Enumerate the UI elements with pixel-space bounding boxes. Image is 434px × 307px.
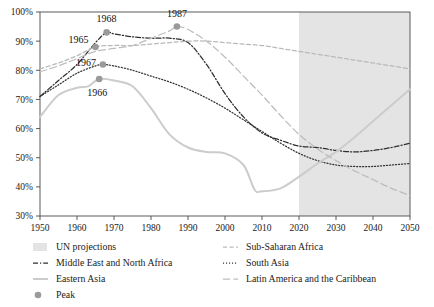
legend-label: South Asia	[246, 257, 289, 268]
legend-item-right-2[interactable]: Latin America and the Caribbean	[223, 273, 376, 284]
legend-item-left-1[interactable]: Middle East and North Africa	[33, 257, 173, 268]
un-projections-band	[299, 12, 410, 216]
peak-marker-1968	[103, 29, 110, 36]
legend-label: Latin America and the Caribbean	[246, 273, 376, 284]
y-tick-label: 30%	[16, 211, 34, 221]
y-tick-label: 80%	[16, 66, 34, 76]
x-tick-label: 2050	[401, 223, 420, 233]
x-tick-label: 2030	[327, 223, 346, 233]
y-axis-ticks-group	[36, 12, 40, 216]
legend-group: UN projectionsMiddle East and North Afri…	[33, 241, 376, 300]
x-tick-label: 2040	[364, 223, 383, 233]
peak-markers-group	[92, 23, 180, 82]
legend-item-right-1[interactable]: South Asia	[223, 257, 289, 268]
legend-item-left-2[interactable]: Eastern Asia	[33, 273, 106, 284]
x-tick-label: 1970	[105, 223, 124, 233]
legend-label: Peak	[56, 289, 75, 300]
legend-item-left-3[interactable]: Peak	[35, 289, 75, 300]
peak-label-1966: 1966	[87, 87, 107, 98]
y-tick-label: 40%	[16, 182, 34, 192]
peak-label-1987: 1987	[167, 8, 187, 19]
x-tick-label: 2010	[253, 223, 272, 233]
legend-swatch-band	[33, 243, 47, 251]
legend-item-right-0[interactable]: Sub-Saharan Africa	[223, 241, 324, 252]
y-axis-labels-group: 30%40%50%60%70%80%90%100%	[11, 7, 33, 221]
legend-label: Middle East and North Africa	[56, 257, 173, 268]
y-tick-label: 70%	[16, 95, 34, 105]
x-tick-label: 2020	[290, 223, 309, 233]
peak-marker-1967	[100, 61, 107, 68]
x-axis-labels-group: 1950196019701980199020002010202020302040…	[31, 223, 420, 233]
peak-marker-1965	[92, 44, 99, 51]
peak-label-1967: 1967	[76, 57, 96, 68]
legend-label: Sub-Saharan Africa	[246, 241, 324, 252]
peak-marker-1966	[96, 76, 103, 83]
peak-label-1968: 1968	[97, 13, 117, 24]
projection-band-group	[299, 12, 410, 216]
y-tick-label: 100%	[11, 7, 33, 17]
legend-item-left-0[interactable]: UN projections	[33, 241, 116, 252]
x-tick-label: 1990	[179, 223, 198, 233]
x-tick-label: 1950	[31, 223, 50, 233]
peak-marker-1987	[174, 23, 181, 30]
x-tick-label: 1980	[142, 223, 161, 233]
x-tick-label: 1960	[68, 223, 87, 233]
chart-container: 1950196019701980199020002010202020302040…	[0, 0, 434, 307]
y-tick-label: 60%	[16, 124, 34, 134]
legend-swatch-dot	[35, 292, 42, 299]
y-tick-label: 50%	[16, 153, 34, 163]
peak-label-1965: 1965	[69, 34, 89, 45]
x-axis-ticks-group	[40, 216, 410, 220]
x-tick-label: 2000	[216, 223, 235, 233]
y-tick-label: 90%	[16, 37, 34, 47]
legend-label: UN projections	[56, 241, 116, 252]
legend-label: Eastern Asia	[56, 273, 106, 284]
line-chart: 1950196019701980199020002010202020302040…	[0, 0, 434, 307]
